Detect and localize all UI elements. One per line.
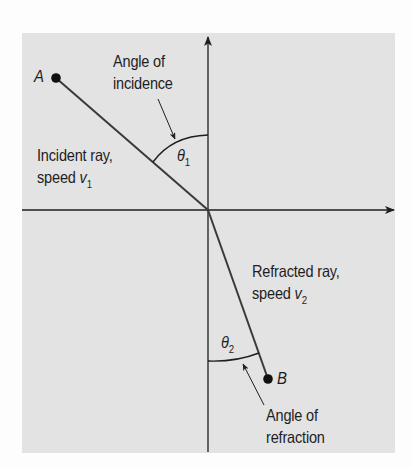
theta1-symbol: θ — [177, 146, 185, 164]
angle-of-incidence-line1: Angle of — [113, 50, 173, 72]
angle-of-refraction-line1: Angle of — [266, 404, 325, 426]
angle-of-refraction-label: Angle of refraction — [266, 404, 325, 448]
incidence-pointer-arrow — [158, 99, 175, 139]
incident-ray-label: Incident ray, speed v1 — [37, 144, 113, 190]
theta2-subscript: 2 — [229, 343, 234, 355]
point-b-label: B — [277, 368, 287, 390]
diagram-graphics — [0, 0, 412, 467]
refracted-ray-label: Refracted ray, speed v2 — [252, 260, 340, 306]
point-b-icon — [263, 374, 273, 384]
point-a-label: A — [34, 66, 44, 88]
point-a-icon — [51, 73, 61, 83]
incident-speed-prefix: speed — [37, 168, 80, 186]
angle-of-incidence-line2: incidence — [113, 72, 173, 94]
refracted-speed-prefix: speed — [252, 284, 295, 302]
angle-of-refraction-line2: refraction — [266, 426, 325, 448]
incident-ray-line1: Incident ray, — [37, 144, 113, 166]
incident-ray-line2: speed v1 — [37, 166, 113, 190]
refraction-pointer-arrow — [243, 364, 264, 405]
refraction-diagram: A B Angle of incidence θ1 Incident ray, … — [0, 0, 412, 467]
theta2-label: θ2 — [221, 331, 234, 355]
theta1-label: θ1 — [177, 144, 190, 168]
refracted-ray-line2: speed v2 — [252, 282, 340, 306]
angle-of-incidence-label: Angle of incidence — [113, 50, 173, 94]
theta2-symbol: θ — [221, 333, 229, 351]
refracted-speed-sub: 2 — [302, 294, 307, 306]
theta1-subscript: 1 — [185, 156, 190, 168]
incident-speed-sub: 1 — [87, 178, 92, 190]
refracted-ray-line1: Refracted ray, — [252, 260, 340, 282]
